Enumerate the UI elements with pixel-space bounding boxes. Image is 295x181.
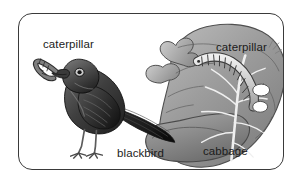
figure-canvas: caterpillar blackbird caterpillar cabbag… [0,0,295,181]
bird-feet [71,153,103,158]
caterpillar-in-beak-illustration [36,58,56,78]
caterpillar-eye [197,60,200,63]
label-caterpillar-leaf: caterpillar [216,41,267,53]
label-caterpillar-bird: caterpillar [43,38,94,50]
leaf-hole-lower [253,101,268,112]
bird-pupil [77,70,81,74]
label-cabbage: cabbage [203,145,248,157]
label-blackbird: blackbird [117,147,164,159]
figure-frame: caterpillar blackbird caterpillar cabbag… [18,13,284,170]
leaf-hole-upper [253,84,270,96]
